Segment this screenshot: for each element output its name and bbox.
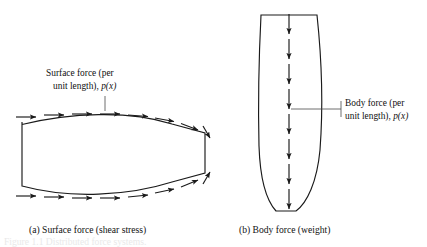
body-outline-a — [22, 115, 205, 195]
label-surface-force-line2-prefix: unit length), — [53, 81, 101, 92]
cutoff-caption: Figure 1.1 Distributed force systems. — [4, 236, 146, 247]
label-body-force-math: p(x) — [392, 111, 408, 122]
label-body-force-line2-prefix: unit length), — [345, 111, 393, 122]
figure-container: Surface force (per unit length), p(x) (a… — [0, 0, 427, 247]
body-outline-b — [259, 15, 322, 211]
caption-panel-b: (b) Body force (weight) — [239, 224, 330, 236]
label-surface-force-math: p(x) — [100, 81, 116, 92]
panel-a-surface-force: Surface force (per unit length), p(x) (a… — [16, 68, 210, 236]
label-body-force-line1: Body force (per — [345, 98, 405, 109]
label-body-force-line2: unit length), p(x) — [345, 111, 408, 122]
panel-b-body-force: Body force (per unit length), p(x) (b) B… — [239, 14, 408, 236]
label-surface-force-line1: Surface force (per — [46, 68, 115, 79]
caption-panel-a: (a) Surface force (shear stress) — [29, 224, 146, 236]
label-surface-force-line2: unit length), p(x) — [53, 81, 116, 92]
arrow-row-bottom-a — [16, 172, 210, 198]
distributed-force-figure: Surface force (per unit length), p(x) (a… — [0, 0, 427, 247]
